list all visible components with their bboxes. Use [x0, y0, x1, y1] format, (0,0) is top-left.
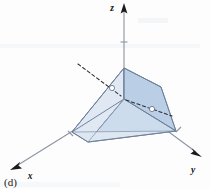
figure-caption: (d): [4, 176, 17, 189]
point-marker-upper-left: [109, 85, 114, 90]
axis-group: [10, 3, 202, 170]
x-axis-label: x: [27, 171, 33, 181]
coordinate-solid-figure: z y x (d): [0, 0, 210, 189]
y-axis-label: y: [190, 165, 196, 175]
figure-container: z y x (d): [0, 0, 210, 189]
point-marker-lower-right: [149, 106, 154, 111]
z-axis-label: z: [109, 3, 114, 13]
